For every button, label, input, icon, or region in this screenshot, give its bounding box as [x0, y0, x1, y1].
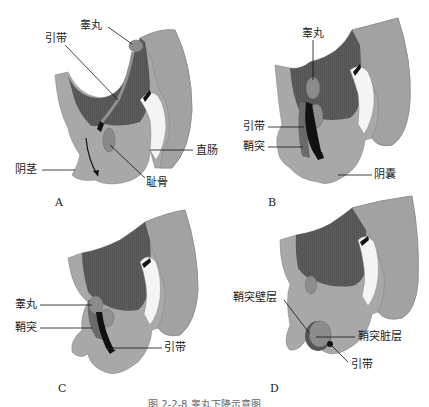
- label-c-testis: 睾丸: [15, 299, 37, 310]
- panel-letter-c: C: [58, 382, 66, 395]
- label-c-gubernaculum: 引带: [164, 342, 186, 353]
- panel-letter-d: D: [270, 382, 279, 395]
- figure-caption: 图 2-2-8 睾丸下降示意图: [148, 398, 261, 407]
- label-d-visceral-layer: 鞘突脏层: [358, 331, 402, 342]
- label-d-parietal-layer: 鞘突壁层: [233, 292, 277, 303]
- label-b-scrotum: 阴囊: [374, 169, 396, 180]
- label-b-testis: 睾丸: [302, 28, 324, 39]
- panel-b-illustration: [268, 18, 410, 184]
- label-a-gubernaculum: 引带: [45, 33, 67, 44]
- label-a-pubis: 耻骨: [146, 177, 168, 188]
- label-c-processus-vaginalis: 鞘突: [15, 322, 37, 333]
- label-b-processus-vaginalis: 鞘突: [243, 141, 265, 152]
- label-b-gubernaculum: 引带: [243, 121, 265, 132]
- label-a-rectum: 直肠: [196, 145, 218, 156]
- panel-letter-b: B: [268, 196, 276, 209]
- panel-letter-a: A: [55, 196, 63, 209]
- label-a-testis: 睾丸: [80, 20, 102, 31]
- panel-a-illustration: [42, 27, 193, 184]
- testicular-descent-diagram: [0, 0, 429, 407]
- label-d-gubernaculum: 引带: [351, 359, 373, 370]
- label-a-penis: 阴茎: [15, 164, 37, 175]
